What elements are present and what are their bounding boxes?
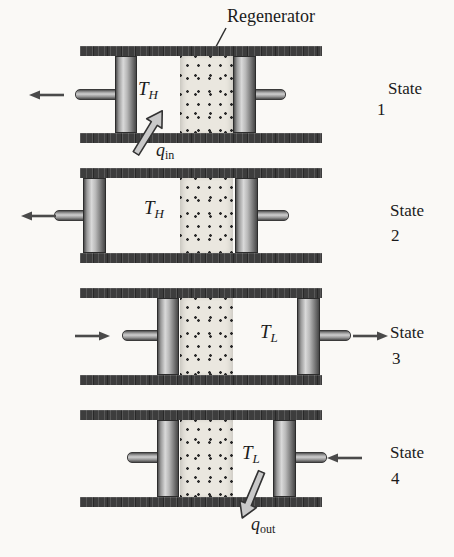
state-3-right-motion-arrow-icon (352, 330, 388, 342)
temp-subscript: L (271, 330, 278, 345)
state-1-left-piston-rod (75, 89, 117, 100)
state-3-top-wall (80, 288, 322, 298)
heat-subscript: out (260, 522, 275, 536)
state-1-regenerator-matrix (180, 56, 233, 133)
state-4-top-wall (80, 410, 322, 420)
state-2-left-piston-rod (54, 210, 85, 221)
state-2-gas-temp-label: TH (144, 198, 164, 220)
state-2-regenerator-matrix (180, 178, 233, 253)
state-1-gas-temp-label: TH (138, 79, 158, 101)
heat-symbol: q (156, 140, 165, 160)
state-4-gas-temp-label: TL (242, 443, 260, 465)
state-4-right-piston-rod (294, 452, 327, 463)
state-2-right-piston-rod (256, 210, 289, 221)
state-4-left-piston-rod (127, 452, 159, 463)
heat-symbol: q (251, 514, 260, 534)
state-3-regenerator-matrix (180, 298, 233, 375)
temp-symbol: T (138, 78, 149, 99)
temp-symbol: T (144, 197, 155, 218)
state-2-word: State (390, 202, 424, 221)
state-4-right-piston (273, 420, 296, 497)
heat-in-label: qin (156, 141, 174, 161)
state-1-number: 1 (377, 101, 386, 120)
state-2-bottom-wall (80, 253, 322, 263)
state-4-number: 4 (391, 470, 400, 489)
state-3-gas-temp-label: TL (260, 322, 278, 344)
state-4-bottom-wall (80, 497, 322, 507)
state-3-left-motion-arrow-icon (74, 330, 110, 342)
state-3-right-piston-rod (318, 330, 351, 341)
state-4-right-motion-arrow-icon (327, 452, 363, 464)
state-4-word: State (390, 444, 424, 463)
state-3-left-piston (157, 298, 179, 375)
state-1-top-wall (80, 46, 322, 56)
state-4-left-piston (157, 420, 179, 497)
state-1-left-piston (115, 56, 137, 133)
regenerator-label: Regenerator (227, 7, 315, 27)
state-3-left-piston-rod (122, 330, 159, 341)
temp-subscript: H (149, 87, 158, 102)
state-2-number: 2 (391, 227, 400, 246)
state-2-top-wall (80, 168, 322, 178)
state-3-word: State (390, 324, 424, 343)
state-3-right-piston (297, 298, 320, 375)
stirling-cycle-figure: Regenerator TH qin State (0, 0, 454, 557)
state-2-left-motion-arrow-icon (21, 210, 57, 222)
state-1-word: State (388, 80, 422, 99)
heat-out-label: qout (251, 515, 275, 535)
temp-symbol: T (242, 442, 253, 463)
state-2-left-piston (83, 178, 106, 253)
heat-subscript: in (165, 148, 174, 162)
state-1-right-piston (233, 56, 256, 133)
temp-symbol: T (260, 321, 271, 342)
state-1-bottom-wall (80, 133, 322, 143)
state-3-bottom-wall (80, 375, 322, 385)
state-4-regenerator-matrix (180, 420, 233, 497)
temp-subscript: L (253, 451, 260, 466)
temp-subscript: H (155, 206, 164, 221)
state-1-right-piston-rod (254, 89, 286, 100)
state-3-number: 3 (392, 350, 401, 369)
state-2-right-piston (235, 178, 258, 253)
state-1-left-motion-arrow-icon (29, 89, 65, 101)
